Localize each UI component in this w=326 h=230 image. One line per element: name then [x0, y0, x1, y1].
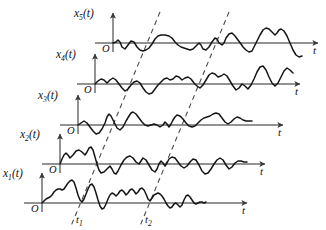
trace-x2	[42, 134, 265, 174]
time-instant-label-t1: t1	[76, 214, 83, 228]
equal-time-dashed-lines	[71, 12, 229, 226]
waveform-x1	[42, 180, 206, 209]
time-instant-label-t2: t2	[145, 214, 152, 228]
origin-label-x4: O	[84, 84, 92, 95]
time-axis-label-x5: t	[313, 44, 317, 56]
trace-x3	[60, 95, 283, 134]
figure-canvas: x5(t)Otx4(t)Otx3(t)Otx2(t)Otx1(t)Ott1t2	[0, 0, 326, 230]
axis-label-x3: x3(t)	[37, 89, 58, 104]
origin-label-x2: O	[49, 164, 57, 175]
time-axis-label-x2: t	[260, 165, 264, 177]
waveform-x2	[60, 147, 247, 174]
axis-label-x2: x2(t)	[19, 128, 40, 143]
trace-x5	[95, 13, 318, 57]
random-process-ensemble-figure: x5(t)Otx4(t)Otx3(t)Otx2(t)Otx1(t)Ott1t2	[0, 0, 326, 230]
time-axis-label-x4: t	[295, 85, 299, 97]
origin-label-x5: O	[102, 43, 110, 54]
axis-label-x4: x4(t)	[55, 48, 76, 63]
origin-label-x3: O	[67, 125, 75, 136]
dashed-time-line-t2	[140, 12, 229, 226]
origin-label-x1: O	[31, 203, 39, 214]
axis-label-x1: x1(t)	[2, 167, 23, 182]
time-axis-label-x1: t	[242, 204, 246, 216]
waveform-x4	[95, 66, 293, 94]
time-axis-label-x3: t	[278, 126, 282, 138]
trace-x4	[77, 54, 300, 94]
axis-label-x5: x5(t)	[73, 7, 94, 22]
sample-function-traces	[24, 13, 318, 212]
waveform-x3	[78, 112, 252, 134]
trace-x1	[24, 173, 247, 212]
